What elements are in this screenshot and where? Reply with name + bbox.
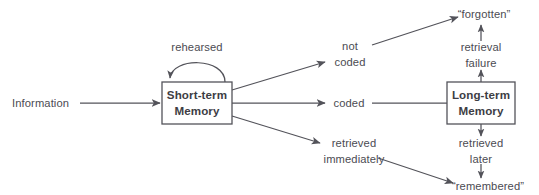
label-remembered: “remembered”	[452, 180, 524, 192]
memory-model-diagram: Information Short-term Memory Long-term …	[0, 0, 539, 195]
diagram-canvas: Information Short-term Memory Long-term …	[0, 0, 539, 195]
edge-short-term-to-not-coded	[232, 62, 325, 90]
label-retrieved-later-line2: later	[470, 153, 492, 165]
edge-not-coded-to-forgotten	[372, 17, 458, 45]
long-term-memory-label-line1: Long-term	[452, 88, 510, 101]
label-not-coded-line2: coded	[335, 56, 366, 68]
label-rehearsed: rehearsed	[171, 41, 222, 53]
label-not-coded-line1: not	[342, 40, 359, 52]
edge-rehearsed-loop	[170, 63, 225, 82]
short-term-memory-label-line1: Short-term	[167, 88, 227, 101]
label-forgotten: “forgotten”	[458, 8, 511, 20]
label-information: Information	[12, 97, 69, 109]
edge-short-term-to-retrieved-immediately	[232, 116, 320, 143]
label-retrieval-failure-line1: retrieval	[461, 41, 502, 53]
edge-retrieved-immediately-to-remembered	[378, 158, 453, 183]
long-term-memory-label-line2: Memory	[458, 104, 504, 117]
label-coded: coded	[334, 97, 365, 109]
label-retrieval-failure-line2: failure	[465, 57, 496, 69]
label-retrieved-immediately-line1: retrieved	[332, 137, 376, 149]
label-retrieved-immediately-line2: immediately	[324, 153, 385, 165]
label-retrieved-later-line1: retrieved	[459, 137, 503, 149]
short-term-memory-label-line2: Memory	[174, 104, 220, 117]
